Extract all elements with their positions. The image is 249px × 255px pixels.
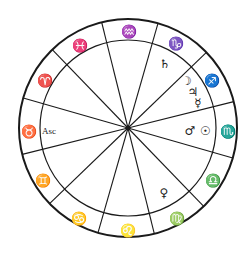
libra-sign-icon: ♎: [205, 174, 221, 187]
virgo-sign-icon: ♍: [169, 212, 185, 225]
sagittarius-sign-icon: ♐: [204, 74, 220, 87]
mars-planet-icon: ♂: [185, 125, 196, 137]
saturn-planet-icon: ♄: [160, 58, 171, 70]
house-cusp-line: [128, 102, 234, 128]
house-cusp-line: [23, 98, 128, 128]
house-cusp-line: [98, 128, 128, 233]
house-cusp-line: [52, 50, 128, 128]
aquarius-sign-icon: ♒: [121, 25, 137, 38]
center-dot: [126, 126, 131, 131]
taurus-sign-icon: ♉: [21, 125, 37, 138]
aries-sign-icon: ♈: [37, 74, 53, 87]
house-cusp-line: [22, 128, 128, 154]
gemini-sign-icon: ♊: [35, 174, 51, 187]
pisces-sign-icon: ♓: [72, 39, 88, 52]
house-cusp-line: [50, 128, 128, 204]
venus-planet-icon: ♀: [160, 187, 169, 199]
cancer-sign-icon: ♋: [71, 212, 87, 225]
house-cusp-line: [128, 23, 158, 128]
house-cusp-line: [128, 128, 233, 158]
ascendant-label: Asc: [42, 127, 56, 136]
scorpio-sign-icon: ♏: [220, 125, 236, 138]
leo-sign-icon: ♌: [120, 224, 136, 237]
sun-planet-icon: ☉: [200, 125, 211, 137]
house-cusp-line: [128, 128, 154, 234]
mercury-planet-icon: ☿: [194, 97, 201, 109]
capricorn-sign-icon: ♑: [168, 37, 184, 50]
